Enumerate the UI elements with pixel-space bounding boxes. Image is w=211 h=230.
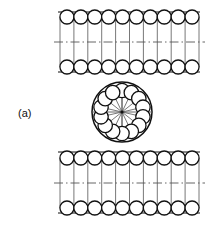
roller-circle <box>116 201 130 215</box>
roller-circle <box>143 201 157 215</box>
roller-circle <box>129 151 143 165</box>
roller-circle <box>88 10 102 24</box>
roller-circle <box>60 60 74 74</box>
roller-circle <box>143 151 157 165</box>
roller-circle <box>60 10 74 24</box>
roller-circle <box>171 151 185 165</box>
figure-container: (a) <box>0 0 211 230</box>
roller-circle <box>102 10 116 24</box>
roller-circle <box>129 201 143 215</box>
roller-circle <box>157 201 171 215</box>
roller-circle <box>143 60 157 74</box>
roller-circle <box>88 60 102 74</box>
roller-circle <box>74 201 88 215</box>
roller-circle <box>157 60 171 74</box>
roller-circle <box>171 201 185 215</box>
roller-circle <box>116 151 130 165</box>
roller-circle <box>185 60 199 74</box>
roller-circle <box>116 10 130 24</box>
figure-label: (a) <box>18 107 31 119</box>
roller-circle <box>60 201 74 215</box>
lower-raceway-block <box>54 151 205 215</box>
roller-circle <box>157 10 171 24</box>
roller-circle <box>74 10 88 24</box>
roller-circle <box>116 60 130 74</box>
wheel-hub-dot <box>120 110 123 113</box>
roller-circle <box>60 151 74 165</box>
roller-circle <box>88 151 102 165</box>
roller-circle <box>171 60 185 74</box>
upper-raceway-block <box>54 10 205 74</box>
wheel-roller-circle <box>105 85 119 99</box>
central-wheel <box>92 82 152 142</box>
roller-circle <box>185 151 199 165</box>
roller-circle <box>171 10 185 24</box>
roller-circle <box>102 151 116 165</box>
roller-circle <box>102 201 116 215</box>
diagram-canvas: (a) <box>0 0 211 230</box>
roller-circle <box>102 60 116 74</box>
roller-circle <box>129 10 143 24</box>
roller-circle <box>185 201 199 215</box>
roller-circle <box>74 60 88 74</box>
roller-circle <box>88 201 102 215</box>
roller-circle <box>157 151 171 165</box>
roller-circle <box>129 60 143 74</box>
roller-circle <box>74 151 88 165</box>
roller-circle <box>143 10 157 24</box>
roller-circle <box>185 10 199 24</box>
